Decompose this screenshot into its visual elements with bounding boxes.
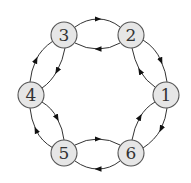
edge-2-to-1 [143,40,167,82]
edge-4-to-5 [42,102,64,140]
edge-3-to-4 [42,48,65,88]
node-4: 4 [18,82,44,108]
node-5: 5 [51,140,77,166]
edge-5-to-4 [30,108,53,148]
node-label: 2 [126,25,137,45]
node-label: 4 [26,85,37,105]
directed-ring-graph: 1 2 3 4 5 6 [0,0,191,183]
node-2: 2 [118,22,144,48]
node-1: 1 [153,82,179,108]
edge-4-to-3 [30,41,53,82]
edge-1-to-6 [143,108,167,148]
edge-1-to-2 [132,48,155,87]
edge-3-to-2 [75,19,120,27]
node-label: 6 [126,143,137,163]
node-6: 6 [118,140,144,166]
edge-6-to-1 [132,102,155,140]
edge-5-to-6 [75,139,120,145]
node-label: 5 [59,143,70,163]
edge-2-to-3 [75,43,120,49]
edge-6-to-5 [75,161,120,169]
node-3: 3 [51,22,77,48]
node-label: 1 [161,85,172,105]
node-label: 3 [59,25,70,45]
